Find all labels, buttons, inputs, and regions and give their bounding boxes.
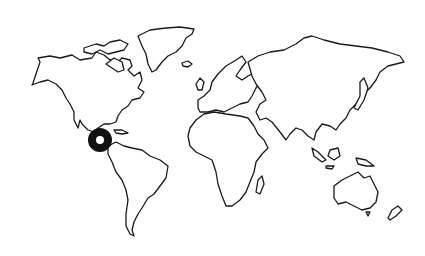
tasmania [366, 212, 370, 216]
madagascar [256, 176, 264, 194]
world-map [0, 0, 425, 256]
new-guinea [356, 158, 374, 166]
new-zealand [388, 206, 402, 220]
indonesia-1 [312, 148, 326, 162]
java [326, 166, 334, 169]
asia [248, 36, 404, 140]
ring-marker-icon [92, 132, 108, 148]
indonesia-2 [328, 148, 340, 160]
location-marker[interactable] [92, 132, 108, 148]
australia [334, 172, 378, 210]
north-america [32, 52, 144, 132]
uk [196, 78, 204, 90]
arctic-islands [84, 40, 128, 54]
south-america [108, 142, 168, 236]
iceland [182, 61, 192, 67]
cuba [114, 130, 128, 134]
